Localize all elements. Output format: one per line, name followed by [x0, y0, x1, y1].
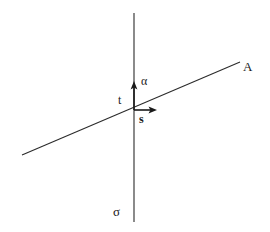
label-t: t [118, 94, 121, 106]
label-s: s [139, 113, 144, 125]
diagram-canvas [0, 0, 270, 232]
label-sigma: σ [113, 205, 120, 218]
s-vector-arrow [134, 107, 157, 114]
slanted-line-A [22, 62, 240, 155]
label-a-plane: A [243, 60, 252, 73]
geometric-diagram-figure: α t s A σ [0, 0, 270, 232]
label-alpha: α [141, 75, 147, 87]
